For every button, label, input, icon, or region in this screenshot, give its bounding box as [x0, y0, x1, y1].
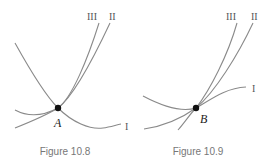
- curve-I-fig8: [15, 43, 121, 128]
- point-A: [55, 105, 61, 111]
- figure-10-8: III II I A Figure 10.8: [15, 11, 128, 157]
- label-II-fig8: II: [109, 11, 116, 22]
- caption-fig8: Figure 10.8: [40, 146, 91, 157]
- label-I-fig8: I: [125, 121, 128, 132]
- point-label-A: A: [53, 116, 62, 130]
- caption-fig9: Figure 10.9: [173, 146, 224, 157]
- label-III-fig8: III: [87, 11, 97, 22]
- label-III-fig9: III: [226, 11, 236, 22]
- label-II-fig9: II: [251, 11, 258, 22]
- label-I-fig9: I: [252, 83, 255, 94]
- figures-canvas: III II I A Figure 10.8 III II I B Figure…: [0, 0, 268, 161]
- point-B: [193, 105, 199, 111]
- figure-10-9: III II I B Figure 10.9: [143, 11, 258, 157]
- curve-II-fig9: [144, 23, 253, 129]
- point-label-B: B: [200, 112, 208, 126]
